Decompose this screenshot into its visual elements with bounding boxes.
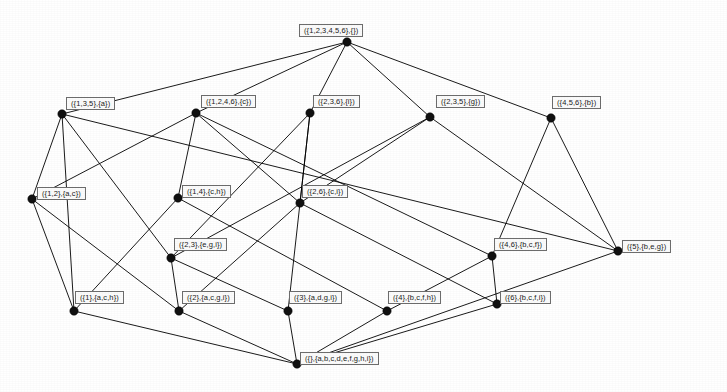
edges-group bbox=[32, 42, 618, 364]
lattice-node-dot[interactable] bbox=[614, 247, 622, 255]
lattice-edge bbox=[492, 118, 551, 256]
lattice-edge bbox=[430, 117, 618, 251]
lattice-edge bbox=[171, 258, 179, 311]
lattice-node-label: ({2,3,5},{g}) bbox=[436, 95, 485, 108]
lattice-node-dot[interactable] bbox=[58, 110, 66, 118]
lattice-node-label: ({4,5,6},{b}) bbox=[552, 96, 601, 109]
lattice-graph-canvas bbox=[0, 0, 727, 392]
lattice-node-label: ({1,4},{c,h}) bbox=[182, 185, 231, 198]
lattice-node-label: ({5},{b,e,g}) bbox=[622, 240, 671, 253]
lattice-node-dot[interactable] bbox=[284, 307, 292, 315]
lattice-edge bbox=[74, 311, 297, 364]
lattice-node-dot[interactable] bbox=[383, 307, 391, 315]
lattice-node-label: ({4},{b,c,f,h}) bbox=[388, 291, 441, 304]
lattice-node-label: ({2,3},{e,g,i}) bbox=[174, 238, 227, 251]
lattice-edge bbox=[62, 114, 74, 311]
lattice-node-dot[interactable] bbox=[175, 307, 183, 315]
lattice-node-label: ({2,3,6},{i}) bbox=[313, 95, 360, 108]
lattice-node-label: ({1,2,4,6},{c}) bbox=[201, 95, 256, 108]
lattice-node-label: ({3},{a,d,g,i}) bbox=[289, 291, 342, 304]
lattice-node-label: ({6},{b,c,f,i}) bbox=[500, 291, 551, 304]
lattice-node-dot[interactable] bbox=[28, 195, 36, 203]
lattice-node-dot[interactable] bbox=[306, 109, 314, 117]
lattice-node-label: ({1},{a,c,h}) bbox=[75, 291, 124, 304]
lattice-node-label: ({1,3,5},{a}) bbox=[66, 97, 115, 110]
lattice-edge bbox=[32, 199, 74, 311]
lattice-node-dot[interactable] bbox=[426, 113, 434, 121]
lattice-node-dot[interactable] bbox=[192, 109, 200, 117]
lattice-node-label: ({1,2},{a,c}) bbox=[37, 187, 86, 200]
concept-lattice-diagram: ({1,2,3,4,5,6},{})({1,3,5},{a})({1,2,4,6… bbox=[0, 0, 727, 392]
lattice-node-dot[interactable] bbox=[174, 194, 182, 202]
lattice-node-label: ({4,6},{b,c,f}) bbox=[494, 238, 547, 251]
lattice-node-dot[interactable] bbox=[70, 307, 78, 315]
lattice-node-label: ({1,2,3,4,5,6},{}) bbox=[299, 24, 363, 37]
lattice-edge bbox=[62, 114, 171, 258]
lattice-node-dot[interactable] bbox=[547, 114, 555, 122]
lattice-node-dot[interactable] bbox=[167, 254, 175, 262]
lattice-node-label: ({2},{a,c,g,i}) bbox=[182, 291, 235, 304]
lattice-node-label: ({},{a,b,c,d,e,f,g,h,i}) bbox=[300, 352, 379, 365]
lattice-edge bbox=[551, 118, 618, 251]
nodes-group bbox=[28, 38, 622, 368]
lattice-edge bbox=[179, 311, 297, 364]
lattice-edge bbox=[297, 251, 618, 364]
lattice-edge bbox=[288, 113, 310, 311]
lattice-edge bbox=[300, 203, 497, 304]
lattice-node-dot[interactable] bbox=[488, 252, 496, 260]
lattice-node-dot[interactable] bbox=[343, 38, 351, 46]
lattice-node-label: ({2,6},{c,i}) bbox=[302, 185, 348, 198]
lattice-edge bbox=[492, 256, 497, 304]
lattice-node-dot[interactable] bbox=[296, 199, 304, 207]
lattice-edge bbox=[288, 311, 297, 364]
